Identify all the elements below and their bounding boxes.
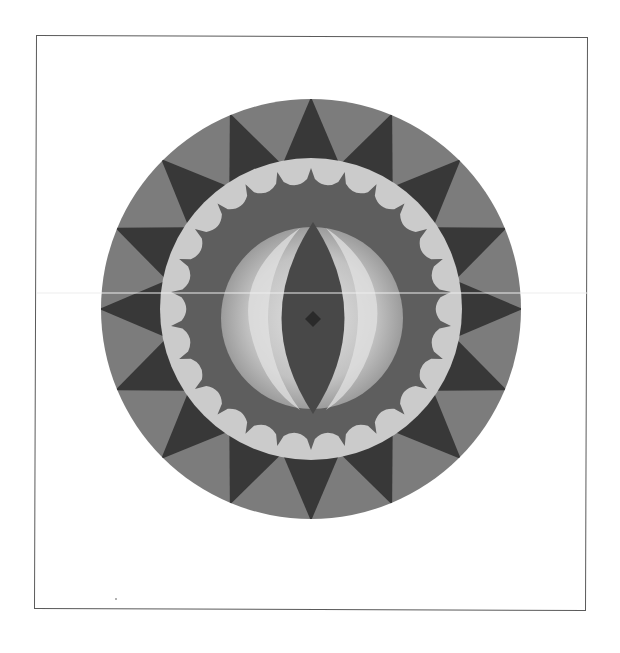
dust-speck: [115, 598, 117, 600]
shield-artwork: [0, 0, 620, 653]
